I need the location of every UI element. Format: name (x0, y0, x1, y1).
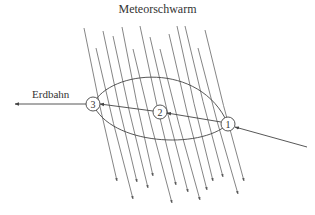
path-2-to-3 (100, 104, 153, 111)
point-2-label: 2 (158, 107, 163, 118)
point-1-label: 1 (226, 119, 231, 130)
point-2-marker: 2 (153, 105, 167, 119)
meteor-line (185, 26, 223, 177)
point-3-marker: 3 (86, 97, 100, 111)
meteor-line (177, 26, 213, 181)
diagram-title: Meteorschwarm (0, 2, 315, 17)
meteor-swarm-diagram: 1 2 3 (0, 0, 315, 215)
meteor-line (96, 48, 133, 199)
incoming-earth-path (235, 127, 307, 147)
meteor-line (160, 49, 200, 200)
point-1-marker: 1 (221, 117, 235, 131)
meteor-line (169, 34, 207, 190)
meteor-line (113, 36, 148, 188)
meteor-line (205, 30, 244, 181)
path-1-to-2 (167, 113, 221, 122)
meteor-line (122, 27, 153, 176)
meteor-line (133, 49, 172, 203)
point-3-label: 3 (91, 99, 96, 110)
earth-orbit-label: Erdbahn (32, 88, 69, 100)
